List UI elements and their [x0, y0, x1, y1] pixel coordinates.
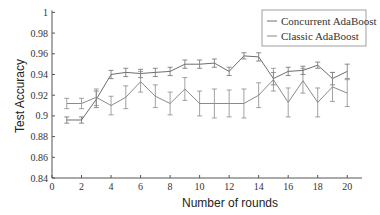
- x-axis-label: Number of rounds: [182, 196, 278, 210]
- series-line: [67, 80, 347, 106]
- y-tick-label: 0.88: [31, 131, 49, 142]
- x-tick-label: 10: [195, 181, 205, 192]
- y-tick-label: 1: [43, 7, 48, 18]
- x-tick-label: 4: [109, 181, 114, 192]
- y-tick-label: 0.98: [31, 28, 49, 39]
- series-concurrent: [64, 53, 349, 123]
- legend-label-classic: Classic AdaBoost: [281, 30, 359, 42]
- x-tick-label: 14: [254, 181, 264, 192]
- y-tick-label: 0.94: [31, 69, 49, 80]
- series-layer: [64, 53, 349, 123]
- legend-label-concurrent: Concurrent AdaBoost: [281, 15, 377, 27]
- y-tick-label: 0.9: [36, 110, 49, 121]
- y-tick-label: 0.92: [31, 90, 49, 101]
- x-tick-label: 2: [79, 181, 84, 192]
- series-classic: [64, 68, 349, 118]
- x-tick-label: 20: [342, 181, 352, 192]
- x-tick-label: 18: [313, 181, 323, 192]
- x-tick-label: 12: [224, 181, 234, 192]
- x-tick-label: 0: [50, 181, 55, 192]
- y-tick-label: 0.84: [31, 173, 49, 184]
- x-tick-label: 6: [138, 181, 143, 192]
- y-tick-label: 0.86: [31, 152, 49, 163]
- series-line: [67, 56, 347, 120]
- legend: Concurrent AdaBoost Classic AdaBoost: [262, 10, 377, 46]
- x-tick-label: 8: [168, 181, 173, 192]
- y-axis-label: Test Accuracy: [13, 59, 27, 133]
- x-tick-label: 16: [283, 181, 293, 192]
- y-tick-label: 0.96: [31, 48, 49, 59]
- accuracy-chart: 0.840.860.880.90.920.940.960.98102468101…: [0, 0, 380, 215]
